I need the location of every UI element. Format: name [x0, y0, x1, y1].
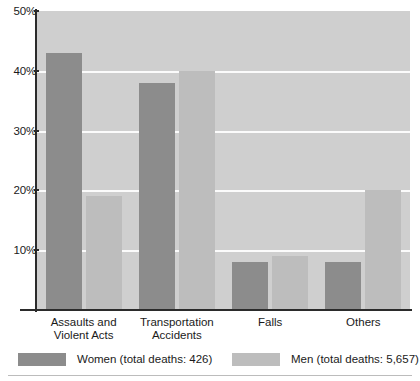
y-tick-label-40: 40%	[2, 65, 36, 77]
category-label-3: Others	[317, 316, 410, 329]
y-tick-label-20: 20%	[2, 184, 36, 196]
bar-men-2	[272, 256, 308, 310]
x-axis-line	[20, 309, 412, 311]
y-tick-mark-50	[34, 10, 39, 12]
category-label-1: TransportationAccidents	[130, 316, 223, 342]
gridline-40	[37, 71, 410, 73]
bar-men-0	[86, 196, 122, 310]
bar-women-1	[139, 83, 175, 310]
legend-swatch-women-icon	[18, 353, 66, 366]
category-label-0: Assaults andViolent Acts	[37, 316, 130, 342]
category-label-line: Violent Acts	[37, 329, 130, 342]
bar-women-3	[325, 262, 361, 310]
legend-item-women: Women (total deaths: 426)	[18, 348, 212, 370]
y-tick-mark-30	[34, 130, 39, 132]
bottom-divider	[8, 375, 412, 376]
bar-men-3	[365, 190, 401, 310]
y-tick-label-50: 50%	[2, 5, 36, 17]
category-label-line: Accidents	[130, 329, 223, 342]
legend-swatch-men-icon	[232, 353, 280, 366]
category-label-line: Assaults and	[37, 316, 130, 329]
category-label-line: Transportation	[130, 316, 223, 329]
legend-label-women: Women (total deaths: 426)	[77, 353, 212, 365]
plot-area	[37, 11, 410, 310]
bar-women-0	[46, 53, 82, 310]
gridline-30	[37, 131, 410, 133]
bar-women-2	[232, 262, 268, 310]
category-label-line: Others	[317, 316, 410, 329]
y-tick-mark-40	[34, 70, 39, 72]
category-label-line: Falls	[224, 316, 317, 329]
chart-legend: Women (total deaths: 426) Men (total dea…	[0, 348, 420, 370]
legend-item-men: Men (total deaths: 5,657)	[232, 348, 419, 370]
y-tick-mark-10	[34, 249, 39, 251]
gridline-20	[37, 190, 410, 192]
bar-chart-figure: 50%40%30%20%10% Assaults andViolent Acts…	[0, 0, 420, 381]
y-tick-label-30: 30%	[2, 125, 36, 137]
legend-label-men: Men (total deaths: 5,657)	[291, 353, 419, 365]
category-label-2: Falls	[224, 316, 317, 329]
bar-men-1	[179, 71, 215, 310]
y-axis-tick-labels: 50%40%30%20%10%	[0, 0, 36, 381]
y-tick-label-10: 10%	[2, 244, 36, 256]
y-tick-mark-20	[34, 189, 39, 191]
